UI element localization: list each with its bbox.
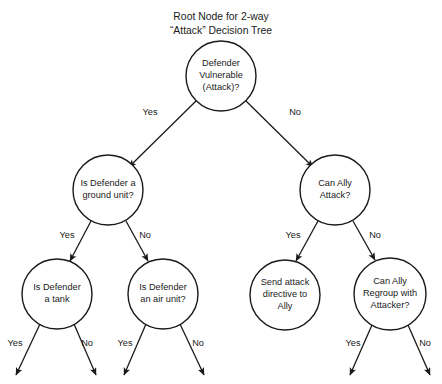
edge-label-ground-yes: Yes	[60, 230, 75, 240]
node-label-line-2: directive to	[263, 289, 307, 299]
edge-root-yes: Yes	[129, 101, 196, 167]
edge-line	[126, 221, 148, 261]
node-label-line-3: Attacker?	[371, 300, 410, 310]
edge-ally-attack-yes: Yes	[286, 221, 319, 261]
node-label-line-2: Attack?	[320, 190, 351, 200]
title-line-2: “Attack” Decision Tree	[170, 25, 272, 36]
edge-label-regroup-yes: Yes	[346, 338, 361, 348]
node-label-line-2: Vulnerable	[199, 70, 243, 80]
edge-ally-attack-no: No	[353, 221, 381, 260]
edge-regroup-no: No	[408, 325, 431, 375]
node-label-line-2: Regroup with	[363, 288, 417, 298]
diagram-title: Root Node for 2-way “Attack” Decision Tr…	[170, 11, 272, 36]
node-send-attack-directive[interactable]: Send attack directive to Ally	[250, 260, 320, 330]
edge-line	[296, 221, 318, 261]
node-can-ally-attack[interactable]: Can Ally Attack?	[300, 155, 370, 225]
node-label-line-1: Defender	[202, 58, 240, 68]
edge-label-tank-no: No	[81, 338, 93, 348]
node-is-defender-air-unit[interactable]: Is Defender an air unit?	[128, 259, 198, 329]
edge-line	[129, 101, 196, 167]
node-label-line-1: Is Defender	[33, 282, 81, 292]
edge-line	[16, 324, 40, 375]
edge-line	[74, 324, 96, 375]
decision-tree-canvas: Root Node for 2-way “Attack” Decision Tr…	[0, 0, 442, 384]
node-label-line-1: Is Defender	[139, 282, 187, 292]
edge-root-no: No	[246, 101, 313, 167]
node-label-line-1: Is Defender a	[80, 178, 136, 188]
decision-tree-diagram: Root Node for 2-way “Attack” Decision Tr…	[0, 0, 442, 384]
edge-line	[408, 325, 430, 375]
edge-air-yes: Yes	[118, 324, 147, 375]
edge-tank-no: No	[74, 324, 96, 375]
node-can-ally-regroup[interactable]: Can Ally Regroup with Attacker?	[354, 258, 426, 330]
edge-ground-no: No	[126, 221, 151, 261]
node-defender-vulnerable[interactable]: Defender Vulnerable (Attack)?	[186, 41, 256, 111]
node-label-line-2: ground unit?	[82, 190, 133, 200]
edge-line	[70, 221, 91, 261]
edge-label-ally-attack-no: No	[369, 230, 381, 240]
edge-line	[180, 324, 204, 375]
node-label-line-3: Ally	[278, 301, 293, 311]
title-line-1: Root Node for 2-way	[173, 11, 269, 22]
node-label-line-3: (Attack)?	[203, 82, 240, 92]
node-is-defender-ground-unit[interactable]: Is Defender a ground unit?	[73, 155, 143, 225]
node-label-line-1: Can Ally	[373, 276, 407, 286]
edge-label-tank-yes: Yes	[8, 338, 23, 348]
edge-air-no: No	[180, 324, 204, 375]
edge-line	[353, 221, 375, 260]
edge-label-ally-attack-yes: Yes	[286, 230, 301, 240]
edge-label-root-yes: Yes	[143, 107, 158, 117]
node-is-defender-a-tank[interactable]: Is Defender a tank	[22, 259, 92, 329]
edge-label-air-yes: Yes	[118, 338, 133, 348]
node-label-line-2: a tank	[44, 294, 69, 304]
node-label-line-2: an air unit?	[140, 294, 185, 304]
edge-label-root-no: No	[289, 107, 301, 117]
edge-label-air-no: No	[192, 338, 204, 348]
edge-label-ground-no: No	[139, 230, 151, 240]
edge-ground-yes: Yes	[60, 221, 92, 261]
edge-line	[246, 101, 313, 167]
edge-label-regroup-no: No	[419, 338, 431, 348]
edge-line	[350, 325, 372, 375]
node-label-line-1: Can Ally	[318, 178, 352, 188]
node-label-line-1: Send attack	[261, 277, 310, 287]
edge-regroup-yes: Yes	[346, 325, 373, 375]
edge-line	[124, 324, 146, 375]
edge-tank-yes: Yes	[8, 324, 41, 375]
